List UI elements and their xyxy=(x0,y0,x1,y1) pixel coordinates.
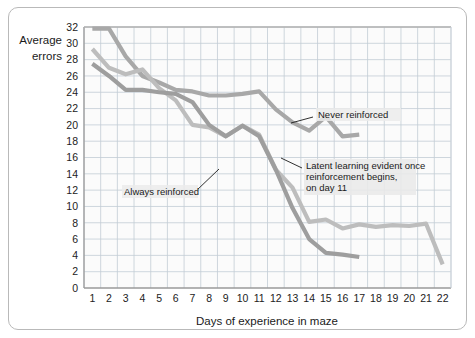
annotation-text-never-reinforced: Never reinforced xyxy=(318,109,388,120)
x-axis-tick-labels: 12345678910111213141516171819202122 xyxy=(89,292,448,304)
x-tick-label: 19 xyxy=(387,292,399,304)
x-tick-label: 22 xyxy=(437,292,449,304)
x-tick-label: 20 xyxy=(403,292,415,304)
y-tick-label: 6 xyxy=(72,233,78,245)
x-tick-label: 12 xyxy=(270,292,282,304)
x-tick-label: 4 xyxy=(139,292,145,304)
x-tick-label: 21 xyxy=(420,292,432,304)
y-tick-label: 22 xyxy=(66,102,78,114)
y-tick-label: 24 xyxy=(66,86,78,98)
x-tick-label: 10 xyxy=(237,292,249,304)
x-tick-label: 11 xyxy=(254,292,265,304)
x-tick-label: 6 xyxy=(173,292,179,304)
y-axis-tick-labels: 02468101214161820222426283032 xyxy=(66,21,78,294)
y-tick-label: 14 xyxy=(66,168,78,180)
x-tick-label: 13 xyxy=(287,292,299,304)
x-tick-label: 8 xyxy=(206,292,212,304)
y-tick-label: 30 xyxy=(66,37,78,49)
annotation-text-latent-learning-line1: Latent learning evident once xyxy=(306,160,425,171)
x-tick-label: 2 xyxy=(106,292,112,304)
line-chart: 02468101214161820222426283032 1234567891… xyxy=(0,0,475,338)
y-axis-title-line1: Average xyxy=(19,34,62,46)
x-tick-label: 17 xyxy=(353,292,365,304)
y-tick-label: 2 xyxy=(72,265,78,277)
annotation-text-always-reinforced: Always reinforced xyxy=(124,186,199,197)
x-tick-label: 5 xyxy=(156,292,162,304)
x-tick-label: 18 xyxy=(370,292,382,304)
annotation-text-latent-learning-line3: on day 11 xyxy=(306,182,347,193)
y-tick-label: 12 xyxy=(66,184,78,196)
y-axis-title-line2: errors xyxy=(32,50,62,62)
y-tick-label: 26 xyxy=(66,70,78,82)
x-axis-title: Days of experience in maze xyxy=(196,315,338,327)
x-tick-label: 16 xyxy=(337,292,349,304)
x-tick-label: 7 xyxy=(190,292,196,304)
x-tick-label: 3 xyxy=(123,292,129,304)
y-tick-label: 32 xyxy=(66,21,78,33)
y-tick-label: 10 xyxy=(66,200,78,212)
x-tick-label: 9 xyxy=(223,292,229,304)
y-tick-label: 0 xyxy=(72,282,78,294)
y-tick-label: 4 xyxy=(72,249,78,261)
annotation-text-latent-learning-line2: reinforcement begins, xyxy=(306,171,397,182)
y-tick-label: 28 xyxy=(66,53,78,65)
y-tick-label: 18 xyxy=(66,135,78,147)
y-tick-label: 20 xyxy=(66,119,78,131)
figure-container: 02468101214161820222426283032 1234567891… xyxy=(0,0,475,338)
x-tick-label: 14 xyxy=(303,292,315,304)
x-tick-label: 15 xyxy=(320,292,332,304)
y-tick-label: 8 xyxy=(72,217,78,229)
x-tick-label: 1 xyxy=(89,292,95,304)
y-tick-label: 16 xyxy=(66,151,78,163)
